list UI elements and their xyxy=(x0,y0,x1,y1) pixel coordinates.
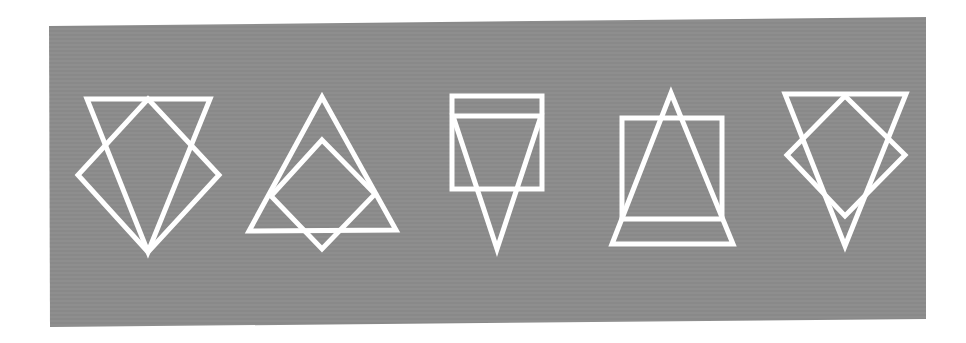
figure-canvas xyxy=(0,0,966,343)
